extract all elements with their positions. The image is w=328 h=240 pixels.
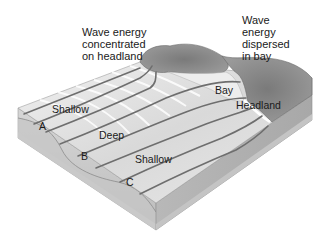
label-deep: Deep bbox=[99, 129, 124, 141]
callout-bay-energy: Wave energy dispersed in bay bbox=[242, 14, 290, 62]
label-shallow-right: Shallow bbox=[135, 153, 172, 165]
label-shallow-left: Shallow bbox=[52, 103, 89, 115]
headland-left bbox=[140, 44, 228, 74]
label-bay: Bay bbox=[215, 84, 233, 96]
callout-headland-energy: Wave energy concentrated on headland bbox=[82, 26, 146, 62]
label-point-a: A bbox=[39, 120, 46, 132]
wave-refraction-diagram: Wave energy concentrated on headland Wav… bbox=[0, 0, 328, 240]
label-point-b: B bbox=[81, 150, 88, 162]
label-headland: Headland bbox=[236, 99, 281, 111]
label-point-c: C bbox=[126, 176, 134, 188]
